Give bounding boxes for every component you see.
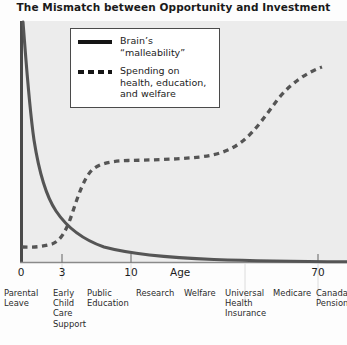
legend-item-malleability: Brain’s “malleability” xyxy=(78,35,212,58)
page-title: The Mismatch between Opportunity and Inv… xyxy=(0,1,347,13)
category-label-canada-pension: Canada Pension xyxy=(316,288,347,308)
category-label-early-child-care-support: Early Child Care Support xyxy=(53,288,83,329)
legend-label-spending: Spending on health, education, and welfa… xyxy=(120,65,212,100)
x-axis-label: Age xyxy=(170,266,190,278)
category-label-medicare: Medicare xyxy=(273,288,317,298)
category-label-welfare: Welfare xyxy=(184,288,224,298)
category-label-parental-leave: Parental Leave xyxy=(4,288,48,308)
x-tick-label-10: 10 xyxy=(119,266,143,278)
legend-item-spending: Spending on health, education, and welfa… xyxy=(78,65,212,100)
legend-label-malleability: Brain’s “malleability” xyxy=(120,35,212,58)
chart-legend: Brain’s “malleability” Spending on healt… xyxy=(70,28,220,108)
category-label-public-education: Public Education xyxy=(87,288,131,308)
solid-line-key xyxy=(78,35,112,49)
x-tick-label-3: 3 xyxy=(51,266,73,278)
x-tick-label-70: 70 xyxy=(306,266,330,278)
chart-figure: The Mismatch between Opportunity and Inv… xyxy=(0,0,347,345)
category-label-research: Research xyxy=(136,288,180,298)
dashed-line-key xyxy=(78,65,112,79)
category-label-universal-health-insurance: Universal Health Insurance xyxy=(225,288,273,319)
x-tick-label-0: 0 xyxy=(10,266,32,278)
